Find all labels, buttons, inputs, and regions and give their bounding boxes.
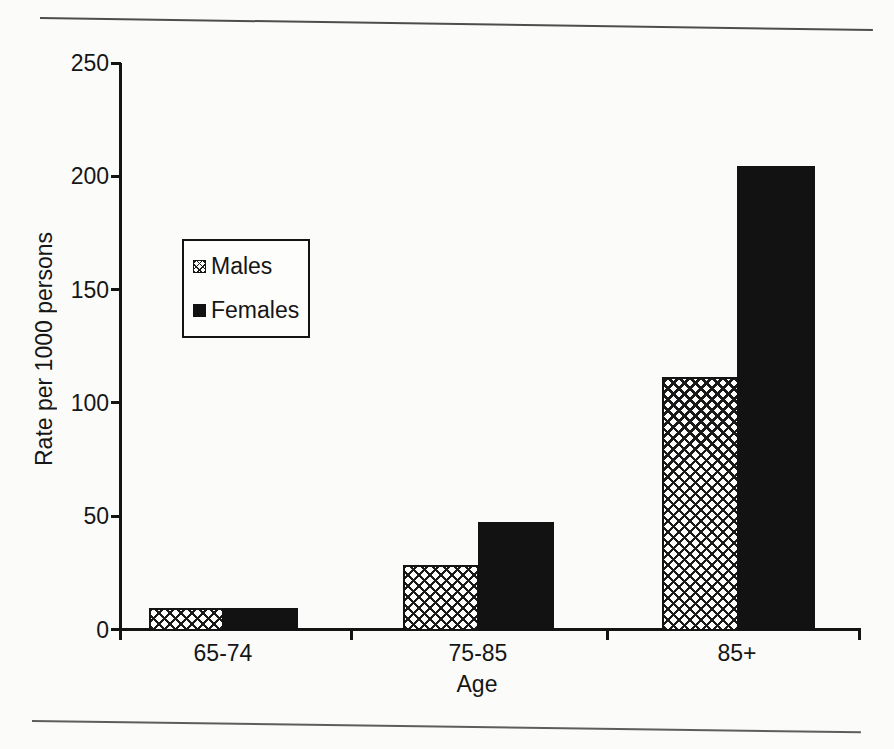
y-tick-50 (111, 515, 121, 518)
y-tick-0 (111, 628, 121, 631)
y-tick-250 (111, 62, 121, 65)
y-tick-label-50: 50 (52, 504, 109, 528)
x-axis-title: Age (437, 671, 517, 698)
legend-label-males: Males (211, 255, 272, 278)
y-tick-200 (111, 175, 121, 178)
bar-females-65-74 (223, 608, 298, 631)
x-tick-2 (606, 630, 609, 640)
y-axis-title: Rate per 1000 persons (31, 243, 58, 455)
x-category-label-75-85: 75-85 (408, 640, 548, 667)
x-category-label-85+: 85+ (667, 640, 807, 667)
y-tick-150 (111, 288, 121, 291)
y-axis-line (119, 63, 122, 640)
x-category-label-65-74: 65-74 (153, 640, 293, 667)
legend: Males Females (182, 239, 310, 338)
y-tick-label-150: 150 (52, 278, 109, 302)
bar-females-75-85 (478, 522, 554, 631)
males-crosshatch-swatch-icon (193, 260, 206, 273)
top-rule (40, 17, 873, 31)
legend-item-females: Females (193, 299, 308, 322)
y-tick-label-100: 100 (52, 391, 109, 415)
y-tick-label-200: 200 (52, 164, 109, 188)
bar-males-75-85 (403, 565, 479, 631)
legend-item-males: Males (193, 255, 308, 278)
bar-females-85+ (737, 166, 815, 631)
females-solid-swatch-icon (193, 304, 206, 317)
x-tick-3 (858, 630, 861, 640)
legend-label-females: Females (211, 299, 299, 322)
y-tick-100 (111, 401, 121, 404)
scanned-page: Rate per 1000 persons 050100150200250 65… (0, 0, 894, 749)
bar-males-65-74 (149, 608, 224, 631)
y-tick-label-0: 0 (52, 618, 109, 642)
bar-males-85+ (662, 377, 740, 631)
x-tick-1 (350, 630, 353, 640)
y-tick-label-250: 250 (52, 51, 109, 75)
bottom-rule (32, 720, 861, 733)
